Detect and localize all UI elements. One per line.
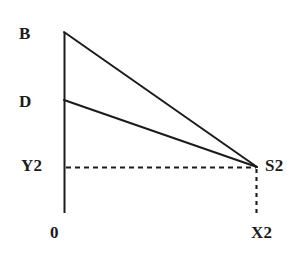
figure-canvas: B D Y2 S2 0 X2 [0,0,308,268]
point-label-d: D [19,93,31,110]
axis-label-y2: Y2 [21,157,42,174]
point-label-b: B [19,25,31,42]
axis-label-x2: X2 [251,224,272,241]
point-label-s2: S2 [265,157,283,174]
origin-label: 0 [50,224,59,241]
line-b-to-s2 [64,32,257,167]
line-d-to-s2 [64,100,257,167]
